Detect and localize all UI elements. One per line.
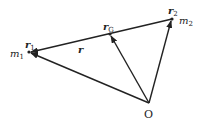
vector-rG-arrow — [111, 36, 149, 103]
label-r: r — [78, 44, 84, 55]
vector-r2-arrow — [149, 21, 171, 103]
label-m1: m1 — [10, 48, 24, 61]
label-r1: r1 — [25, 39, 35, 52]
label-m2: m2 — [179, 15, 193, 28]
vector-diagram: m1 r1 rG r2 m2 r O — [0, 0, 204, 121]
vector-r-arrow — [31, 19, 172, 52]
vector-r1-arrow — [31, 53, 149, 103]
label-rG: rG — [103, 21, 114, 34]
label-r2: r2 — [168, 5, 178, 18]
label-origin: O — [144, 108, 153, 121]
